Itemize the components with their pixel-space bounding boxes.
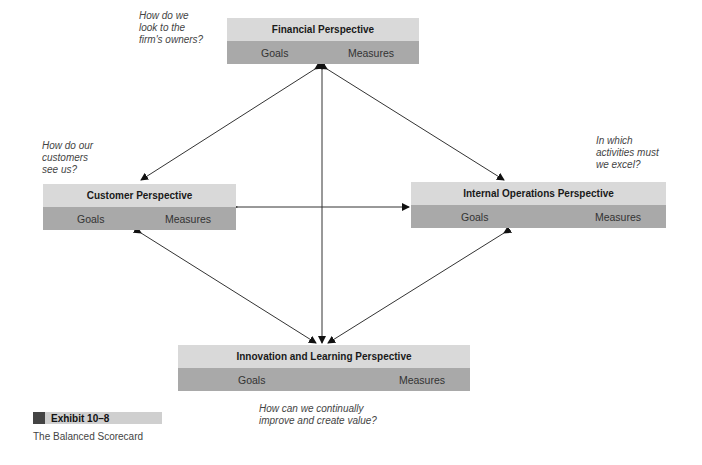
financial-measures-label: Measures [348,47,394,59]
internal-operations-perspective-box: Internal Operations Perspective Goals Me… [411,182,666,228]
connector-arrows [0,0,702,465]
innovation-learning-question: How can we continually improve and creat… [259,403,377,427]
financial-question: How do we look to the firm's owners? [139,10,203,46]
arrow-internal-innovation [328,233,504,343]
exhibit-label-bar: Exhibit 10–8 [33,412,162,424]
arrow-financial-internal [327,69,504,180]
customer-measures-label: Measures [165,213,211,225]
internal-operations-perspective-title: Internal Operations Perspective [411,182,666,205]
arrow-customer-innovation [141,233,316,343]
customer-goals-label: Goals [77,213,104,225]
innovation-learning-perspective-title: Innovation and Learning Perspective [178,345,470,368]
internal-operations-question: In which activities must we excel? [596,135,659,171]
customer-perspective-title: Customer Perspective [43,184,236,207]
customer-question: How do our customers see us? [42,140,93,176]
exhibit-number: Exhibit 10–8 [51,413,109,424]
innovation-learning-perspective-box: Innovation and Learning Perspective Goal… [178,345,470,391]
financial-perspective-title: Financial Perspective [227,18,419,41]
arrow-financial-customer [141,69,315,180]
internal-goals-label: Goals [461,211,488,223]
financial-goals-label: Goals [261,47,288,59]
exhibit-marker-square [33,412,45,424]
customer-perspective-box: Customer Perspective Goals Measures [43,184,236,230]
financial-perspective-box: Financial Perspective Goals Measures [227,18,419,64]
exhibit-caption: The Balanced Scorecard [33,431,143,442]
internal-measures-label: Measures [595,211,641,223]
innovation-measures-label: Measures [399,374,445,386]
innovation-goals-label: Goals [238,374,265,386]
